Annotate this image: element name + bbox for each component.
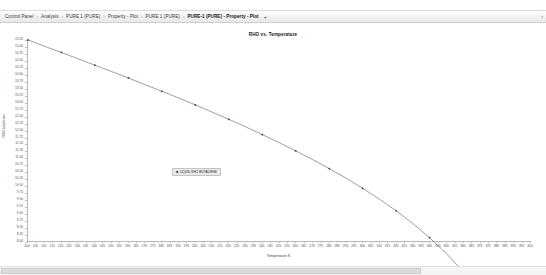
x-axis-tick: 310 (376, 245, 381, 248)
x-axis-tick: 380 (494, 245, 499, 248)
x-axis-tick: 180 (158, 245, 163, 248)
sidebar-item-pure-1-second[interactable]: PURE 1 (PURE) (144, 13, 182, 20)
x-axis-tick-mark (471, 241, 472, 243)
x-axis-tick: 120 (58, 245, 63, 248)
x-axis-tick: 365 (469, 245, 474, 248)
x-axis-tick: 165 (133, 245, 138, 248)
x-axis-tick: 105 (33, 245, 38, 248)
sidebar-item-analysis[interactable]: Analysis (39, 13, 61, 20)
x-axis-tick: 200 (192, 245, 197, 248)
x-axis-tick: 265 (301, 245, 306, 248)
horizontal-scrollbar[interactable] (0, 266, 546, 275)
x-axis-tick-mark (446, 241, 447, 243)
x-axis-tick-mark (77, 241, 78, 243)
sidebar-item-property-plot[interactable]: Property - Plot (106, 13, 140, 20)
x-axis-tick: 360 (460, 245, 465, 248)
x-axis-tick: 290 (343, 245, 348, 248)
x-axis-tick: 155 (117, 245, 122, 248)
x-axis-tick-mark (119, 241, 120, 243)
x-axis-tick-mark (270, 241, 271, 243)
x-axis-tick: 230 (242, 245, 247, 248)
series-marker (194, 104, 196, 106)
x-axis-tick-mark (186, 241, 187, 243)
x-axis-tick: 340 (427, 245, 432, 248)
x-axis-tick: 225 (234, 245, 239, 248)
x-axis-tick: 160 (125, 245, 130, 248)
plot-area[interactable] (27, 40, 530, 242)
x-axis-tick-mark (505, 241, 506, 243)
y-axis-title: RHO kmol/cum (2, 106, 6, 146)
horizontal-scrollbar-thumb[interactable] (1, 268, 421, 274)
breadcrumb-tab-strip[interactable]: Control Panel › Analysis › PURE 1 (PURE)… (0, 10, 546, 23)
x-axis-tick-mark (387, 241, 388, 243)
x-axis-tick-mark (496, 241, 497, 243)
x-axis-tick: 350 (443, 245, 448, 248)
y-axis-tick: 15.00 (15, 45, 23, 48)
sidebar-item-pure-1[interactable]: PURE 1 (PURE) (64, 13, 102, 20)
x-axis-tick-mark (312, 241, 313, 243)
y-axis-tick: 14.75 (15, 52, 23, 55)
x-axis-tick-mark (262, 241, 263, 243)
x-axis-tick-mark (228, 241, 229, 243)
x-axis-tick: 390 (511, 245, 516, 248)
x-axis-tick-mark (488, 241, 489, 243)
series-marker (27, 39, 29, 41)
x-axis-tick-mark (295, 241, 296, 243)
y-axis-tick: 9.50 (17, 199, 23, 202)
x-axis-tick-mark (513, 241, 514, 243)
x-axis-tick-mark (413, 241, 414, 243)
x-axis-tick: 220 (226, 245, 231, 248)
x-axis-tick-mark (346, 241, 347, 243)
legend-chip[interactable]: LIQUID RHO BUTADIENE (172, 168, 221, 176)
x-axis-tick-mark (178, 241, 179, 243)
x-axis-tick-mark (421, 241, 422, 243)
x-axis-tick-mark (170, 241, 171, 243)
tab-pure-1-property-plot-active[interactable]: PURE-1 (PURE) - Property - Plot (185, 13, 260, 20)
y-axis-tick: 11.50 (15, 143, 23, 146)
y-axis-tick: 12.75 (15, 108, 23, 111)
x-axis-tick-mark (161, 241, 162, 243)
x-axis-tick-mark (371, 241, 372, 243)
series-marker (261, 133, 263, 135)
x-axis-tick-mark (111, 241, 112, 243)
y-axis-tick: 10.50 (15, 171, 23, 174)
x-axis-tick-mark (94, 241, 95, 243)
x-axis-tick-mark (396, 241, 397, 243)
series-marker (94, 64, 96, 66)
x-axis-tick-mark (128, 241, 129, 243)
x-axis-tick: 305 (368, 245, 373, 248)
x-axis-tick: 275 (318, 245, 323, 248)
x-axis-tick-mark (429, 241, 430, 243)
chart-title: RHO vs. Temperature (0, 32, 546, 37)
plot-panel: RHO vs. Temperature 15.2515.0014.7514.50… (0, 24, 546, 266)
series-marker (295, 150, 297, 152)
x-axis-tick: 245 (267, 245, 272, 248)
x-axis-tick-mark (463, 241, 464, 243)
sidebar-item-control-panel[interactable]: Control Panel (3, 13, 35, 20)
x-axis-tick: 395 (519, 245, 524, 248)
y-axis-tick: 8.75 (17, 219, 23, 222)
add-tab-button[interactable]: + (261, 14, 270, 20)
x-axis-tick-mark (153, 241, 154, 243)
x-axis-tick: 190 (175, 245, 180, 248)
x-axis-tick-mark (320, 241, 321, 243)
y-axis-tick: 8.25 (17, 233, 23, 236)
y-axis-tick: 12.25 (15, 122, 23, 125)
x-axis-tick-mark (279, 241, 280, 243)
y-axis-tick: 9.25 (17, 205, 23, 208)
x-axis-tick: 355 (452, 245, 457, 248)
x-axis-tick-mark (354, 241, 355, 243)
y-axis-tick: 13.75 (15, 80, 23, 83)
x-axis-tick: 135 (83, 245, 88, 248)
plot-window: Control Panel › Analysis › PURE 1 (PURE)… (0, 0, 546, 275)
x-axis-tick-mark (287, 241, 288, 243)
x-axis-tick: 110 (41, 245, 46, 248)
y-axis-tick: 12.00 (15, 129, 23, 132)
y-axis-tick: 15.25 (15, 38, 23, 41)
x-axis-tick: 210 (209, 245, 214, 248)
x-axis-tick-mark (35, 241, 36, 243)
x-axis-tick-labels: 1001051101151201251301351401451501551601… (27, 243, 530, 253)
x-axis-tick-mark (52, 241, 53, 243)
x-axis-tick-mark (530, 241, 531, 243)
chevron-right-icon[interactable]: › (541, 13, 543, 19)
